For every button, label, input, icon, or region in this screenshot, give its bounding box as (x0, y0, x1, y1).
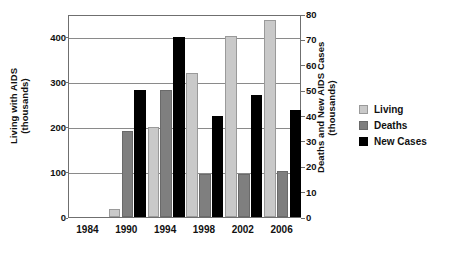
plot-area (68, 15, 301, 218)
bar-deaths-2002 (238, 174, 250, 217)
x-tick-label-2002: 2002 (223, 224, 263, 235)
bar-deaths-1990 (122, 131, 134, 217)
bar-living-1994 (148, 127, 160, 217)
left-tick-mark (64, 218, 68, 219)
left-axis-title-line2: (thousands) (19, 41, 30, 171)
bar-new-cases-2006 (290, 110, 302, 217)
left-tick-mark (64, 172, 68, 173)
left-tick-label: 0 (26, 213, 66, 223)
bar-new-cases-1990 (134, 90, 146, 217)
left-tick-label: 200 (26, 123, 66, 133)
legend-swatch-icon (359, 121, 368, 130)
right-tick-label: 60 (306, 61, 332, 71)
bar-living-1990 (109, 209, 121, 217)
bar-new-cases-1994 (173, 37, 185, 217)
bar-deaths-1994 (160, 90, 172, 217)
bar-deaths-2006 (277, 171, 289, 217)
right-tick-mark (301, 116, 305, 117)
aids-statistics-bar-chart: Living with AIDS (thousands) Deaths and … (0, 0, 450, 255)
right-tick-label: 30 (306, 137, 332, 147)
right-tick-label: 0 (306, 213, 332, 223)
bar-living-1998 (186, 73, 198, 217)
right-tick-mark (301, 192, 305, 193)
bar-new-cases-1998 (212, 116, 224, 218)
legend-swatch-icon (359, 137, 368, 146)
right-tick-mark (301, 167, 305, 168)
right-tick-mark (301, 15, 305, 16)
x-tick-label-1984: 1984 (67, 224, 107, 235)
right-tick-label: 10 (306, 188, 332, 198)
legend-label: Deaths (374, 120, 407, 131)
legend-item-new-cases: New Cases (359, 133, 427, 149)
x-tick-label-2006: 2006 (262, 224, 302, 235)
right-tick-mark (301, 65, 305, 66)
left-tick-label: 100 (26, 168, 66, 178)
right-tick-mark (301, 91, 305, 92)
right-tick-mark (301, 218, 305, 219)
right-tick-label: 50 (306, 86, 332, 96)
bar-deaths-1998 (199, 174, 211, 217)
bar-new-cases-2002 (251, 95, 263, 217)
bar-living-2006 (264, 20, 276, 217)
left-axis-title: Living with AIDS (thousands) (8, 41, 30, 171)
right-tick-label: 40 (306, 112, 332, 122)
legend-label: Living (374, 104, 403, 115)
right-tick-label: 80 (306, 10, 332, 20)
legend-item-living: Living (359, 101, 427, 117)
legend-swatch-icon (359, 105, 368, 114)
left-tick-mark (64, 127, 68, 128)
left-tick-mark (64, 37, 68, 38)
right-tick-mark (301, 141, 305, 142)
right-tick-mark (301, 40, 305, 41)
chart-legend: LivingDeathsNew Cases (359, 101, 427, 149)
right-tick-label: 70 (306, 35, 332, 45)
legend-item-deaths: Deaths (359, 117, 427, 133)
x-tick-label-1990: 1990 (106, 224, 146, 235)
x-tick-label-1998: 1998 (184, 224, 224, 235)
left-tick-mark (64, 82, 68, 83)
right-tick-label: 20 (306, 162, 332, 172)
x-tick-label-1994: 1994 (145, 224, 185, 235)
bar-living-2002 (225, 36, 237, 217)
left-axis-title-line1: Living with AIDS (8, 68, 19, 144)
left-tick-label: 300 (26, 78, 66, 88)
legend-label: New Cases (374, 136, 427, 147)
left-tick-label: 400 (26, 33, 66, 43)
